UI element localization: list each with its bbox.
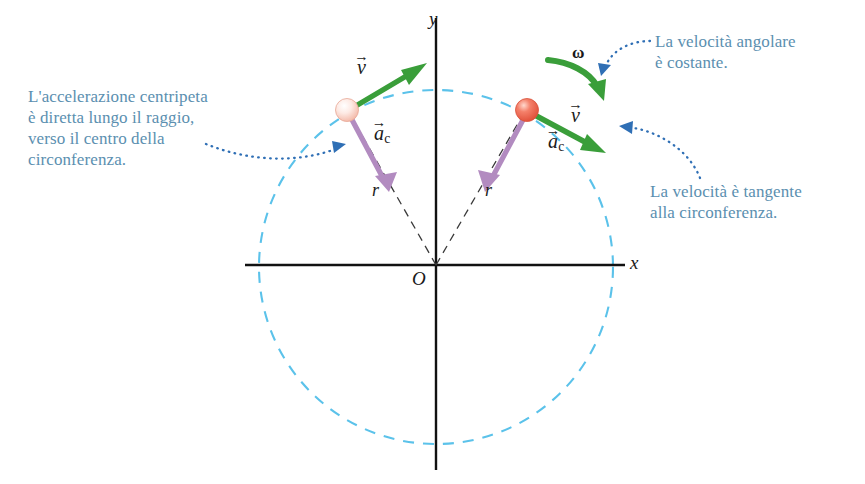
x-axis-label: x — [630, 252, 638, 274]
radius-label-right: r — [485, 180, 492, 201]
origin-label: O — [412, 268, 426, 290]
acceleration-subscript: c — [558, 139, 564, 154]
velocity-vector-right — [529, 112, 606, 153]
leader-line-omega — [598, 41, 650, 76]
velocity-label-right: → v — [571, 104, 580, 127]
vector-arrow-glyph: → — [546, 123, 560, 137]
vector-arrow-glyph: → — [568, 97, 582, 111]
radius-line-right — [436, 118, 521, 265]
acceleration-subscript: c — [384, 131, 390, 146]
callout-angular-velocity-text: La velocità angolare è costante. — [655, 31, 855, 73]
vector-arrow-glyph: → — [372, 115, 386, 129]
omega-label: ω — [572, 43, 584, 63]
callout-tangential-velocity-text: La velocità è tangente alla circonferenz… — [650, 181, 850, 223]
callout-acceleration-text: L'accelerazione centripeta è diretta lun… — [28, 86, 268, 170]
acceleration-label-right: → a c — [548, 130, 564, 155]
particle-right — [516, 99, 539, 122]
velocity-label-left: → v — [357, 56, 366, 79]
vector-arrow-glyph: → — [354, 49, 368, 63]
y-axis-label: y — [429, 8, 437, 30]
particle-left — [336, 99, 359, 122]
acceleration-label-left: → a c — [374, 122, 390, 147]
leader-line-tangent — [619, 121, 700, 178]
figure-canvas: L'accelerazione centripeta è diretta lun… — [0, 0, 865, 484]
radius-label-left: r — [372, 180, 379, 201]
